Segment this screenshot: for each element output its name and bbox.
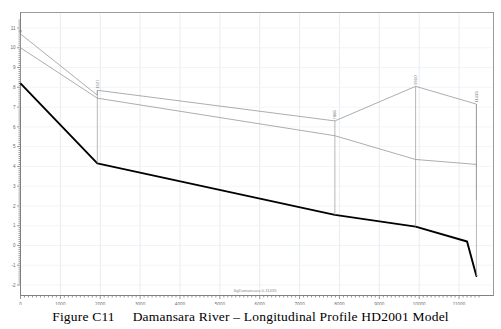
y-tick-label: 11 (11, 26, 16, 31)
y-tick-label: 3 (13, 184, 16, 189)
y-tick-label: 0 (13, 243, 16, 248)
y-tick-label: 2 (13, 204, 16, 209)
figure-caption: Figure C11 Damansara River – Longitudina… (0, 305, 501, 329)
y-tick-label: 6 (13, 125, 16, 130)
longitudinal-profile-chart: 0100020003000400050006000700080009000100… (0, 0, 501, 305)
y-tick-label: 8 (13, 85, 16, 90)
figure-caption-text: Figure C11 Damansara River – Longitudina… (52, 309, 449, 325)
y-tick-label: 1 (13, 223, 16, 228)
y-tick-label: 4 (13, 164, 16, 169)
chainage-label: 1927 (95, 79, 100, 89)
chainage-label: 9910 (413, 75, 418, 85)
chart-frame (21, 13, 494, 296)
y-tick-label: 5 (13, 144, 16, 149)
y-tick-label: -1 (11, 263, 16, 268)
chart-plot-area: 0100020003000400050006000700080009000100… (0, 0, 501, 305)
y-tick-label: 10 (10, 45, 16, 50)
x-axis-ticks: 0100020003000400050006000700080009000100… (19, 296, 493, 306)
chainage-label: 11435 (474, 91, 479, 103)
x-axis-title: SgDamansara 0-11435 (234, 288, 278, 293)
y-axis-ticks: -2-101234567891011 (10, 13, 20, 296)
chainage-label: 7885 (332, 109, 337, 119)
y-tick-label: 9 (13, 65, 16, 70)
y-tick-label: 7 (13, 105, 16, 110)
y-tick-label: -2 (11, 283, 16, 288)
figure-page: 0100020003000400050006000700080009000100… (0, 0, 501, 329)
